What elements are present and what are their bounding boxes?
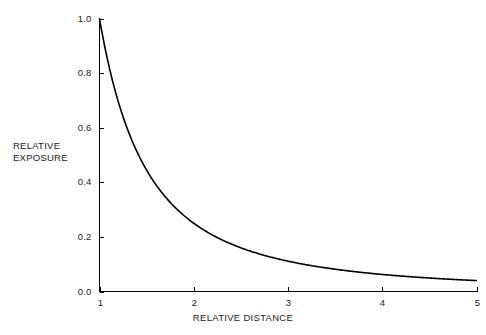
x-tick-label: 5 [468, 297, 486, 308]
y-axis-title: RELATIVE EXPOSURE [13, 140, 79, 163]
x-tick-label: 2 [185, 297, 205, 308]
chart-plot: RELATIVE EXPOSURE RELATIVE DISTANCE 0.00… [0, 0, 486, 335]
y-axis-title-line1: RELATIVE [13, 140, 79, 152]
y-tick-label: 1.0 [58, 13, 92, 24]
x-axis-title-text: RELATIVE DISTANCE [193, 312, 293, 323]
x-tick-label: 3 [279, 297, 299, 308]
x-axis-ticks [101, 287, 478, 292]
x-axis-title: RELATIVE DISTANCE [0, 312, 486, 323]
y-tick-label: 0.4 [58, 176, 92, 187]
x-tick-label: 4 [373, 297, 393, 308]
figure: ILLUMINATION PRODUCTION RELATIVE EXPOSUR… [0, 0, 486, 335]
y-axis-ticks [100, 20, 104, 293]
y-tick-label: 0.8 [58, 67, 92, 78]
data-curve-inverse-square [100, 19, 477, 281]
x-tick-label: 1 [91, 297, 111, 308]
y-tick-label: 0.6 [58, 122, 92, 133]
y-axis-title-line2: EXPOSURE [13, 152, 79, 164]
axes [100, 19, 478, 293]
y-tick-label: 0.2 [58, 231, 92, 242]
y-tick-label: 0.0 [58, 286, 92, 297]
